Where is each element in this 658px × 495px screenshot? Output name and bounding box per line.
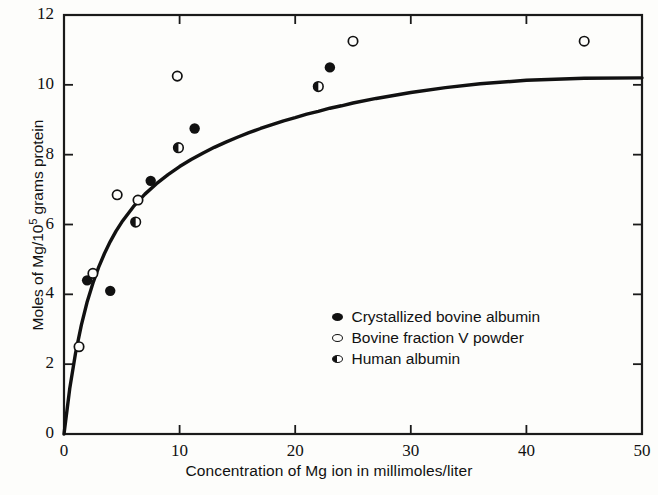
data-point-open — [74, 342, 83, 351]
legend-item-2: Bovine fraction V powder — [330, 327, 540, 348]
y-tick-label: 12 — [22, 4, 54, 24]
y-axis-title-tail: grams protein — [29, 120, 46, 219]
data-point-open — [88, 269, 97, 278]
data-point-filled — [146, 176, 156, 186]
y-axis-title: Moles of Mg/105 grams protein — [27, 60, 47, 390]
y-axis-title-exponent: 5 — [27, 219, 39, 225]
chart-background — [0, 0, 658, 495]
x-axis-title: Concentration of Mg ion in millimoles/li… — [0, 462, 658, 480]
legend-marker-open-circle-icon — [332, 334, 343, 342]
data-point-open — [133, 195, 142, 204]
data-point-open — [580, 36, 589, 45]
x-tick-label: 10 — [166, 441, 194, 461]
legend-item-1: Crystallized bovine albumin — [330, 306, 540, 327]
x-tick-label: 40 — [512, 441, 540, 461]
legend-item-3: Human albumin — [330, 348, 540, 369]
x-tick-label: 0 — [50, 441, 78, 461]
chart-figure — [0, 0, 658, 495]
y-tick-label: 0 — [22, 423, 54, 443]
chart-legend: Crystallized bovine albuminBovine fracti… — [330, 306, 540, 369]
data-point-filled — [105, 286, 115, 296]
legend-label: Crystallized bovine albumin — [352, 306, 541, 327]
data-point-filled — [189, 123, 199, 133]
legend-label: Human albumin — [352, 348, 461, 369]
data-point-filled — [325, 62, 335, 72]
x-tick-label: 20 — [281, 441, 309, 461]
data-point-open — [348, 36, 357, 45]
data-point-open — [173, 71, 182, 80]
legend-marker-filled-circle-icon — [332, 313, 343, 321]
x-tick-label: 30 — [397, 441, 425, 461]
legend-marker-half-filled-circle-icon — [332, 355, 343, 363]
y-axis-title-base: Moles of Mg/10 — [29, 225, 46, 331]
data-point-open — [112, 190, 121, 199]
legend-label: Bovine fraction V powder — [352, 327, 524, 348]
x-tick-label: 50 — [628, 441, 656, 461]
